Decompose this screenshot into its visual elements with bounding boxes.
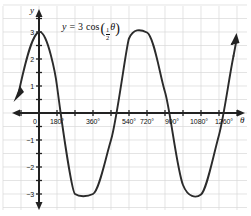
x-tick-label-540: 540° <box>122 118 136 125</box>
y-tick-label-neg2: −2 <box>18 164 34 171</box>
y-tick-label-2: 2 <box>22 56 34 63</box>
y-tick-label-1: 1 <box>22 83 34 90</box>
y-tick-label-neg3: −3 <box>18 191 34 198</box>
x-tick-label-1260: 1260° <box>215 118 233 125</box>
equation-close-paren: ) <box>115 21 120 36</box>
graph-figure: y θ 0 180° 360° 540° 720° 900° 1080° 126… <box>0 0 251 216</box>
equation-open-paren: ( <box>100 21 105 36</box>
equation-function: cos <box>86 21 99 32</box>
equation-lhs: y <box>62 21 66 32</box>
fraction-denominator: 2 <box>106 35 110 42</box>
x-tick-label-1080: 1080° <box>190 118 208 125</box>
x-tick-label-360: 360° <box>86 118 100 125</box>
x-tick-label-180: 180° <box>50 118 64 125</box>
coordinate-plane-svg <box>0 0 251 216</box>
equation-annotation: y=3cos(12θ) <box>62 22 120 42</box>
equation-amplitude: 3 <box>78 21 83 32</box>
x-axis-label: θ <box>240 116 244 125</box>
y-tick-label-neg1: −1 <box>18 137 34 144</box>
y-axis-label: y <box>30 6 34 15</box>
x-tick-label-0: 0 <box>33 118 37 125</box>
x-tick-label-900: 900° <box>165 118 179 125</box>
x-tick-label-720: 720° <box>140 118 154 125</box>
y-tick-label-3: 3 <box>22 29 34 36</box>
equation-equals: = <box>69 21 75 32</box>
